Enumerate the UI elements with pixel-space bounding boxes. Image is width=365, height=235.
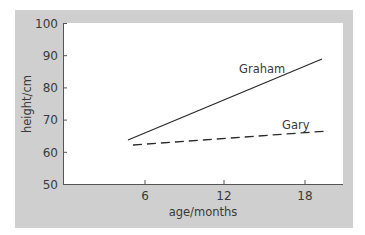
y-tick-label-80: 80 [43, 81, 58, 95]
x-tick-label-18: 18 [297, 189, 312, 203]
line-chart: 100 90 80 70 60 50 6 12 18 age/months he… [0, 0, 365, 235]
plot-area [63, 23, 343, 184]
series-label-graham: Graham [239, 62, 285, 76]
x-axis-title: age/months [169, 205, 238, 219]
y-tick-label-50: 50 [43, 178, 58, 192]
y-tick-label-90: 90 [43, 49, 58, 63]
x-tick-label-12: 12 [216, 189, 231, 203]
x-tick-label-6: 6 [141, 189, 149, 203]
y-tick-label-60: 60 [43, 146, 58, 160]
y-axis-title: height/cm [20, 75, 34, 133]
y-tick-label-100: 100 [35, 17, 58, 31]
series-label-gary: Gary [282, 118, 310, 132]
y-tick-label-70: 70 [43, 113, 58, 127]
